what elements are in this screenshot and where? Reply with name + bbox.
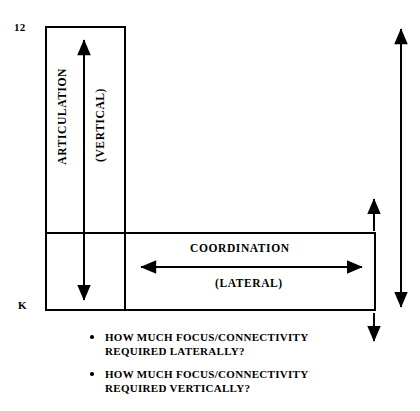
list-item: HOW MUCH FOCUS/CONNECTIVITY REQUIRED VER… [88, 367, 388, 395]
bullet-icon [90, 335, 94, 339]
question-line-2: REQUIRED LATERALLY? [105, 344, 388, 358]
question-line-1: HOW MUCH FOCUS/CONNECTIVITY [105, 367, 388, 381]
questions-list: HOW MUCH FOCUS/CONNECTIVITY REQUIRED LAT… [88, 330, 388, 404]
question-line-2: REQUIRED VERTICALLY? [105, 381, 388, 395]
diagram-page: 12 K ARTICULATION (VERTICAL) COORDINATIO… [0, 0, 420, 411]
vertical-sublabel: (VERTICAL) [95, 88, 107, 162]
question-line-1: HOW MUCH FOCUS/CONNECTIVITY [105, 330, 388, 344]
coordination-label: COORDINATION [190, 243, 290, 255]
axis-label-bottom: K [18, 300, 27, 311]
bullet-icon [90, 372, 94, 376]
lateral-sublabel: (LATERAL) [215, 278, 283, 290]
articulation-label: ARTICULATION [57, 68, 69, 165]
axis-label-top: 12 [14, 22, 25, 33]
list-item: HOW MUCH FOCUS/CONNECTIVITY REQUIRED LAT… [88, 330, 388, 358]
